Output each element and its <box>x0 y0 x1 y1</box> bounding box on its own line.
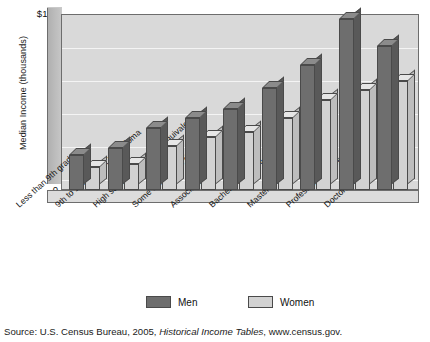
legend-label-men: Men <box>178 297 197 308</box>
source-prefix: Source: U.S. Census Bureau, 2005, <box>4 326 159 337</box>
source-note: Source: U.S. Census Bureau, 2005, Histor… <box>4 326 342 337</box>
bar-men <box>262 88 277 190</box>
bar-men <box>223 109 238 190</box>
legend-label-women: Women <box>280 297 314 308</box>
chart-figure: Median Income (thousands) $100806040200 … <box>0 0 430 342</box>
bar-men <box>300 65 315 190</box>
source-title: Historical Income Tables <box>159 326 263 337</box>
bar-men <box>377 46 392 190</box>
legend-swatch-men-icon <box>146 296 171 308</box>
plot-wall-left <box>47 8 61 184</box>
source-suffix: , www.census.gov. <box>263 326 342 337</box>
bar-men <box>146 128 161 190</box>
bar-series-container <box>61 14 419 190</box>
chart-legend: Men Women <box>0 296 430 314</box>
x-axis-tick-labels: Less than 9th grade9th to 12th grade, no… <box>0 196 430 292</box>
bar-men <box>108 148 123 190</box>
legend-swatch-women-icon <box>248 296 273 308</box>
legend-item-men: Men <box>146 296 197 308</box>
bar-men <box>339 19 354 190</box>
bar-men <box>69 155 84 190</box>
bar-men <box>185 118 200 190</box>
legend-item-women: Women <box>248 296 314 308</box>
